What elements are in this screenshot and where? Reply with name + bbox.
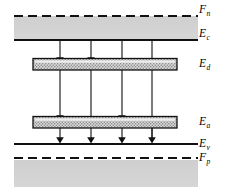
label-fn: Fn [199, 4, 210, 16]
label-ec-sub: c [206, 33, 209, 42]
diagram-canvas [0, 0, 229, 193]
label-ev-base: E [199, 137, 206, 149]
label-ea-sub: a [206, 121, 210, 130]
ed-donor-level [33, 59, 177, 71]
label-ea: Ea [199, 116, 210, 128]
label-ev: Ev [199, 138, 209, 150]
label-ed-base: E [199, 57, 206, 69]
label-ea-base: E [199, 115, 206, 127]
label-ed-sub: d [206, 63, 210, 72]
label-fn-base: F [199, 3, 206, 15]
label-fp-sub: p [206, 157, 210, 166]
valence-band-region [14, 160, 198, 187]
label-ed: Ed [199, 58, 210, 70]
ea-acceptor-level [33, 117, 177, 129]
label-ec: Ec [199, 28, 209, 40]
conduction-band-region [14, 16, 198, 40]
energy-band-diagram: Fn Ec Ed Ea Ev Fp [0, 0, 229, 193]
label-fp-base: F [199, 151, 206, 163]
label-fn-sub: n [206, 9, 210, 18]
label-fp: Fp [199, 152, 210, 164]
label-ev-sub: v [206, 143, 209, 152]
label-ec-base: E [199, 27, 206, 39]
